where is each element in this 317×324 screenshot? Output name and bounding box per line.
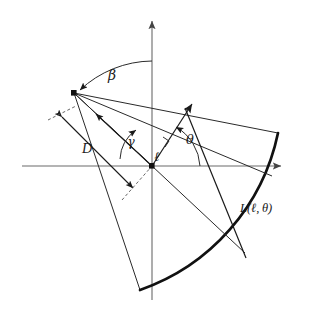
axes-group: [22, 21, 281, 300]
label-D: D: [81, 141, 92, 156]
geometry-diagram: β γ θ ℓ D L(ℓ, θ): [0, 0, 317, 324]
apex-rays-group: [74, 93, 272, 253]
label-line-L: L(ℓ, θ): [239, 201, 272, 215]
D-tick-upper: [48, 106, 76, 120]
apex-point: [71, 90, 77, 96]
line-L: [185, 108, 246, 258]
D-tick-lower: [122, 166, 152, 200]
label-ell: ℓ: [154, 149, 160, 164]
figure-root: β γ θ ℓ D L(ℓ, θ): [0, 0, 317, 324]
D-measure-group: [48, 106, 152, 200]
angle-arcs-group: [80, 61, 200, 166]
line-L-group: [185, 108, 246, 258]
D-measure-arrow: [62, 117, 133, 188]
label-theta: θ: [186, 132, 194, 147]
label-gamma: γ: [127, 135, 135, 149]
right-angle-marker: [163, 137, 169, 147]
labels-group: β γ θ ℓ D L(ℓ, θ): [81, 67, 272, 215]
label-beta: β: [107, 67, 116, 83]
